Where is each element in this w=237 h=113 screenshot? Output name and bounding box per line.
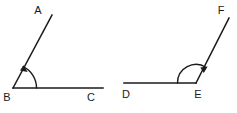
angle-def-arc	[178, 64, 207, 83]
angle-abc-group: B C A	[3, 4, 103, 103]
point-label-a: A	[34, 4, 42, 16]
point-label-c: C	[87, 91, 95, 103]
ray-ba-line	[13, 15, 52, 88]
ray-ef-line	[196, 18, 229, 83]
point-label-b: B	[3, 91, 10, 103]
angle-def-group: D E F	[122, 4, 229, 100]
point-label-d: D	[122, 88, 130, 100]
point-label-e: E	[194, 88, 201, 100]
point-label-f: F	[218, 4, 225, 16]
geometry-figure-canvas: B C A D E F	[0, 0, 237, 113]
